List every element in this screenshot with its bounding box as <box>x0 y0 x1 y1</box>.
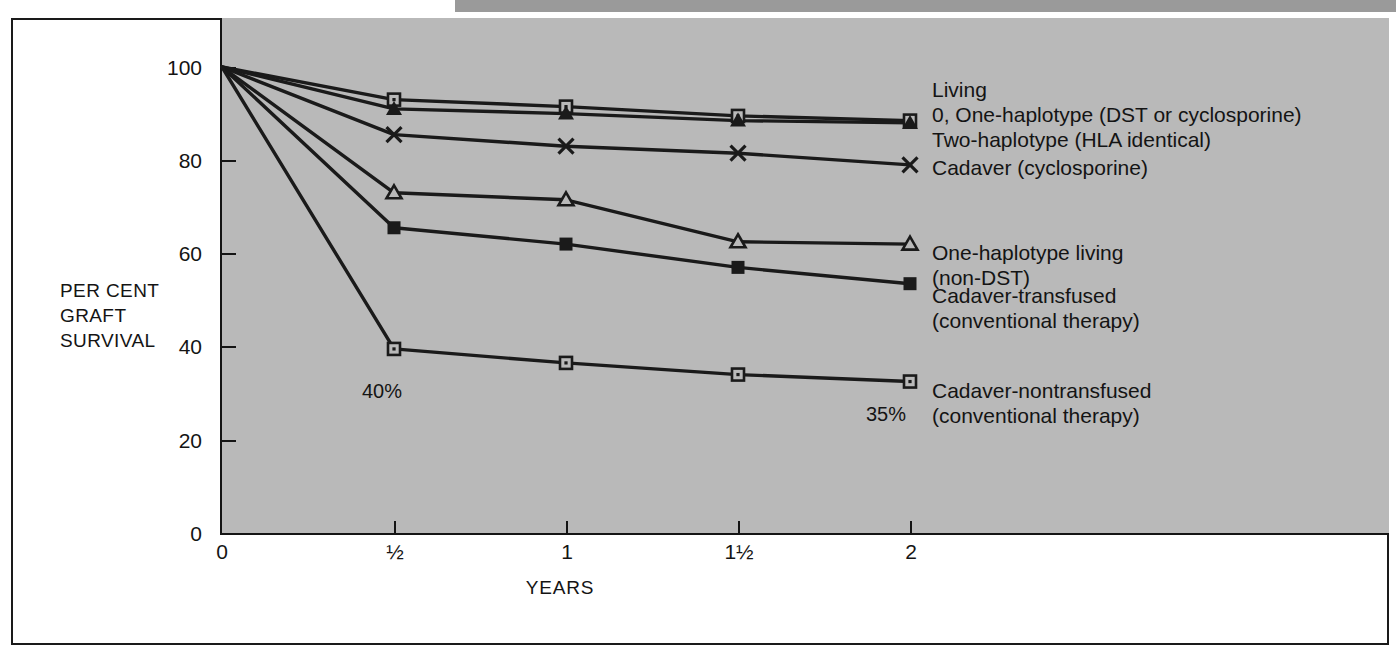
annotation-35-percent: 35% <box>866 403 906 426</box>
x-tick-1half <box>738 521 740 534</box>
x-tick-label-1: 1 <box>532 540 602 564</box>
x-axis-title: YEARS <box>0 577 1120 599</box>
y-axis-title-line-3: SURVIVAL <box>60 328 159 353</box>
x-tick-1 <box>566 521 568 534</box>
x-tick-label-0: 0 <box>187 540 257 564</box>
y-tick-label-100: 100 <box>142 56 202 80</box>
y-tick-label-80: 80 <box>142 149 202 173</box>
y-axis-title-line-2: GRAFT <box>60 303 159 328</box>
y-tick-label-20: 20 <box>142 429 202 453</box>
legend-entry-living: Living 0, One-haplotype (DST or cyclospo… <box>932 77 1302 152</box>
x-tick-label-2: 2 <box>876 540 946 564</box>
y-axis-line <box>220 18 222 535</box>
legend-entry-cadaver-cyclosporine: Cadaver (cyclosporine) <box>932 155 1148 180</box>
y-axis-title-line-1: PER CENT <box>60 278 159 303</box>
y-tick-label-60: 60 <box>142 242 202 266</box>
top-band <box>455 0 1396 12</box>
x-tick-half <box>394 521 396 534</box>
y-tick-100 <box>222 67 236 69</box>
legend-entry-cadaver-nontransfused: Cadaver-nontransfused (conventional ther… <box>932 378 1151 428</box>
annotation-40-percent: 40% <box>362 380 402 403</box>
x-tick-label-half: ½ <box>360 540 430 564</box>
x-tick-label-1half: 1½ <box>704 540 774 564</box>
legend-entry-cadaver-transfused: Cadaver-transfused (conventional therapy… <box>932 283 1140 333</box>
y-tick-40 <box>222 346 236 348</box>
x-tick-2 <box>910 521 912 534</box>
y-tick-60 <box>222 253 236 255</box>
y-tick-80 <box>222 160 236 162</box>
y-tick-20 <box>222 440 236 442</box>
y-axis-title: PER CENT GRAFT SURVIVAL <box>60 278 159 353</box>
chart-page: 100 80 60 40 20 0 0 ½ 1 1½ 2 PER CENT GR… <box>0 0 1396 664</box>
